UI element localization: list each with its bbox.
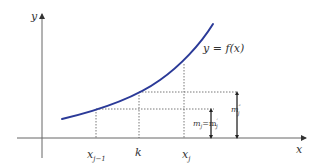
lower-height-label: mj=m′j [193, 117, 219, 130]
y-axis-label: y [30, 10, 38, 23]
tick-label-k: k [135, 146, 142, 159]
function-curve [62, 24, 213, 119]
tick-label-x-j-minus-1: xj−1 [87, 148, 106, 163]
riemann-bound-diagram: y x y = f(x) mj=m′j m″j xj−1 k xj [0, 0, 321, 163]
curve-label: y = f(x) [202, 42, 244, 55]
upper-height-label: m″j [231, 103, 242, 117]
tick-label-x-j: xj [182, 148, 191, 163]
x-axis-label: x [296, 143, 303, 156]
